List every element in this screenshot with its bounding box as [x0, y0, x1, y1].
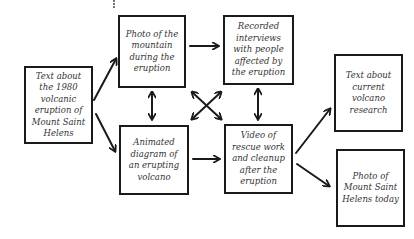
- arrow-video-to-research: [296, 109, 330, 153]
- node-video-rescue: Video of rescue work and cleanup after t…: [224, 124, 293, 194]
- node-label: Text about current volcano research: [339, 70, 398, 116]
- node-label: Text about the 1980 volcanic eruption of…: [29, 71, 88, 140]
- node-label: Video of rescue work and cleanup after t…: [229, 130, 288, 188]
- node-interviews: Recorded interviews with people affected…: [223, 15, 294, 85]
- arrow-video-to-today: [297, 164, 329, 186]
- node-label: Photo of Mount Saint Helens today: [341, 171, 400, 206]
- node-label: Photo of the mountain during the eruptio…: [123, 29, 181, 75]
- node-label: Recorded interviews with people affected…: [228, 21, 289, 79]
- arrow-text1980-to-photo: [94, 59, 116, 100]
- flowchart-canvas: Text about the 1980 volcanic eruption of…: [0, 0, 414, 239]
- node-text-research: Text about current volcano research: [334, 54, 403, 132]
- node-photo-today: Photo of Mount Saint Helens today: [336, 149, 405, 227]
- node-photo-mountain: Photo of the mountain during the eruptio…: [118, 15, 186, 88]
- node-animated-diagram: Animated diagram of an erupting volcano: [119, 125, 189, 195]
- node-text-1980: Text about the 1980 volcanic eruption of…: [24, 66, 93, 144]
- node-label: Animated diagram of an erupting volcano: [124, 137, 184, 183]
- arrow-text1980-to-animated: [96, 114, 115, 151]
